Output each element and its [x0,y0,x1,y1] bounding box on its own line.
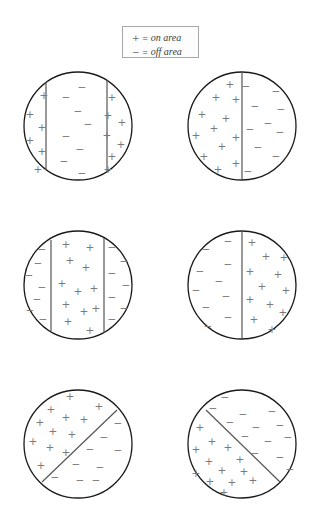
plus-symbol: + [66,390,75,402]
minus-symbol: − [264,435,273,447]
plus-symbol: + [103,129,112,141]
plus-symbol: + [40,89,49,101]
plus-symbol: + [62,298,71,310]
plus-symbol: + [258,280,267,292]
plus-symbol: + [205,455,214,467]
minus-symbol: − [226,416,235,428]
plus-symbol: + [248,236,257,248]
plus-symbol: + [92,302,101,314]
plus-symbol: + [80,305,89,317]
minus-symbol: − [221,391,230,403]
minus-symbol: − [60,155,69,167]
plus-symbol: + [74,285,83,297]
plus-symbol: + [104,163,113,175]
plus-symbol: + [117,138,126,150]
plus-symbol: + [95,400,104,412]
minus-symbol: − [34,257,43,269]
plus-symbol: + [38,145,47,157]
minus-symbol: − [122,279,131,291]
plus-symbol: + [36,416,45,428]
plus-symbol: + [80,413,89,425]
minus-symbol: − [272,150,281,162]
plus-symbol: + [86,241,95,253]
minus-symbol: − [202,243,211,255]
minus-symbol: − [202,301,211,313]
plus-symbol: + [212,91,221,103]
minus-symbol: − [96,461,105,473]
panel-bottom-left: ++++++++++++−−−−−−−−− [24,390,132,498]
plus-symbol: + [246,265,255,277]
minus-symbol: − [286,463,295,475]
minus-symbol: − [26,304,35,316]
minus-symbol: − [276,451,285,463]
plus-symbol: + [250,313,259,325]
plus-symbol: + [218,464,227,476]
panel-bottom-right: −−−−−−−−−−−−−+++++++++++++ [188,390,296,498]
minus-symbol: − [252,421,261,433]
minus-symbol: − [224,311,233,323]
plus-symbol: + [240,465,249,477]
legend: +=on area −=off area [122,26,199,58]
plus-symbol: + [26,134,35,146]
plus-symbol: + [232,131,241,143]
plus-symbol: + [232,93,241,105]
minus-symbol: − [251,447,260,459]
minus-symbol: − [114,417,123,429]
plus-symbol: + [62,411,71,423]
plus-symbol: + [62,238,71,250]
plus-symbol: + [200,150,209,162]
plus-symbol: + [49,425,58,437]
minus-symbol: − [108,313,117,325]
minus-symbol: − [100,431,109,443]
plus-symbol: + [47,403,56,415]
minus-symbol: − [108,241,117,253]
minus-symbol: − [114,444,123,456]
plus-symbol: + [82,261,91,273]
plus-symbol: + [282,284,291,296]
plus-symbol: + [68,428,77,440]
minus-symbol: − [268,405,277,417]
plus-symbol: + [214,163,223,175]
plus-symbol: + [86,324,95,336]
minus-symbol: − [241,430,250,442]
plus-symbol: + [218,140,227,152]
plus-symbol: + [236,453,245,465]
minus-symbol: − [204,320,213,332]
minus-symbol: − [272,85,281,97]
minus-symbol: − [72,458,81,470]
minus-symbol: − [108,291,117,303]
minus-symbol: − [239,408,248,420]
legend-label-off: off area [151,46,182,57]
plus-symbol: + [274,268,283,280]
panel-middle-right: −−−−−−−−−−++++++++++++ [188,231,296,339]
plus-symbol: + [220,486,229,498]
minus-symbol: − [192,284,201,296]
minus-symbol: − [244,165,253,177]
panel-middle-left: −−−−−−−++++++++++++−−−−−−− [24,231,132,339]
plus-symbol: + [280,251,289,263]
minus-icon: − [132,47,141,57]
minus-symbol: − [86,443,95,455]
minus-symbol: − [254,141,263,153]
partition-diagram-canvas: ++++++−−−−−−−−+++++++++++++++++++−−−−−−−… [0,0,318,528]
minus-symbol: − [277,103,286,115]
minus-symbol: − [120,302,129,314]
plus-symbol: + [249,474,258,486]
minus-symbol: − [246,123,255,135]
minus-symbol: − [276,126,285,138]
plus-symbol: + [58,277,67,289]
plus-symbol: + [226,78,235,90]
minus-symbol: − [74,105,83,117]
panel-top-left: ++++++−−−−−−−−+++++++ [24,72,132,180]
plus-symbol: + [192,443,201,455]
plus-symbol: + [196,421,205,433]
minus-symbol: − [76,143,85,155]
minus-symbol: − [120,255,129,267]
plus-symbol: + [62,446,71,458]
plus-symbol: + [210,122,219,134]
plus-symbol: + [46,441,55,453]
plus-symbol: + [208,435,217,447]
plus-symbol: + [222,112,231,124]
plus-symbol: + [108,150,117,162]
minus-symbol: − [276,419,285,431]
